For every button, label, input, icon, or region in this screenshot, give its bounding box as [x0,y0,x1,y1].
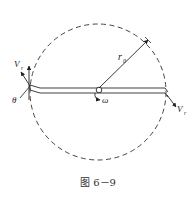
figure-caption: 图 6－9 [80,177,116,188]
left-angle-line [20,86,30,98]
left-velocity-subscript: r [21,65,24,71]
hub [96,87,102,93]
radius-subscript: 0 [123,58,126,64]
left-velocity-label: V [14,59,21,69]
omega-arrow [95,93,100,100]
radius-label: r [118,51,122,62]
rotor-diagram: r 0 ω V r θ V r 图 6－9 [0,0,196,203]
right-velocity-subscript: r [184,110,187,116]
omega-label: ω [102,95,108,105]
right-velocity-label: V [177,104,184,114]
radius-arrow [99,40,148,88]
theta-label: θ [12,95,17,105]
right-velocity-arrow [167,95,176,107]
